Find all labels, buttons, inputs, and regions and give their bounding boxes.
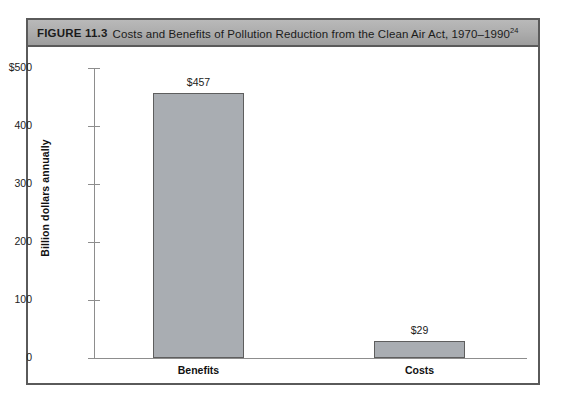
bar-benefits[interactable] bbox=[153, 93, 244, 358]
y-axis-tick bbox=[88, 184, 100, 185]
y-axis-tick-label: 400 bbox=[0, 119, 32, 131]
y-axis-tick-label: $500 bbox=[0, 61, 32, 73]
y-axis-title: Billion dollars annually bbox=[39, 118, 51, 278]
figure-number: FIGURE 11.3 bbox=[37, 27, 108, 39]
figure-header: FIGURE 11.3 Costs and Benefits of Pollut… bbox=[28, 20, 538, 47]
y-axis-tick bbox=[88, 300, 100, 301]
x-axis-line bbox=[94, 358, 527, 359]
y-axis-tick bbox=[88, 68, 100, 69]
x-axis-label-costs: Costs bbox=[374, 364, 465, 376]
bar-costs[interactable] bbox=[374, 341, 465, 358]
figure-frame: FIGURE 11.3 Costs and Benefits of Pollut… bbox=[26, 18, 540, 385]
figure-caption-text: Costs and Benefits of Pollution Reductio… bbox=[113, 27, 510, 39]
y-axis-tick bbox=[88, 126, 100, 127]
y-axis-tick bbox=[88, 242, 100, 243]
y-axis-tick-label: 200 bbox=[0, 235, 32, 247]
figure-caption: Costs and Benefits of Pollution Reductio… bbox=[113, 26, 519, 40]
y-axis-tick-label: 100 bbox=[0, 293, 32, 305]
y-axis-line bbox=[94, 68, 95, 358]
bar-value-benefits: $457 bbox=[153, 76, 244, 88]
chart-plot-area: Billion dollars annually $500 400 300 20… bbox=[28, 47, 538, 383]
y-axis-tick-label: 0 bbox=[0, 351, 32, 363]
y-axis-tick bbox=[88, 358, 100, 359]
x-axis-label-benefits: Benefits bbox=[153, 364, 244, 376]
figure-footnote-superscript: 24 bbox=[510, 26, 519, 35]
bar-value-costs: $29 bbox=[374, 324, 465, 336]
y-axis-tick-label: 300 bbox=[0, 177, 32, 189]
